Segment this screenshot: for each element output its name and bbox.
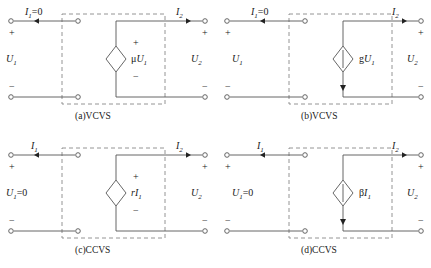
label-output-voltage: U2 xyxy=(407,54,418,67)
sign-right-plus: + xyxy=(202,162,208,172)
source-label: βI1 xyxy=(359,188,371,201)
sign-right-minus: − xyxy=(202,216,208,226)
label-output-current: I2 xyxy=(392,7,399,20)
sign-right-plus: + xyxy=(202,28,208,38)
terminal-right-bottom xyxy=(419,95,424,100)
terminal-left-top xyxy=(225,153,230,158)
source-minus-sign: − xyxy=(133,72,139,82)
label-output-current: I2 xyxy=(392,141,399,154)
label-input-current: I1 xyxy=(257,141,264,154)
terminal-left-top xyxy=(9,153,14,158)
sign-left-minus: − xyxy=(9,82,15,92)
terminal-inner-top xyxy=(76,19,81,24)
sign-right-plus: + xyxy=(418,28,424,38)
sign-right-minus: − xyxy=(202,82,208,92)
dependent-source-figure: I1=0 I2 + − + − U1 U2 + − μU1 (a)VCVS xyxy=(0,0,431,268)
sign-left-minus: − xyxy=(225,216,231,226)
terminal-inner-top xyxy=(303,19,308,24)
terminal-inner-bottom xyxy=(303,95,308,100)
terminal-left-top xyxy=(9,19,14,24)
label-output-current: I2 xyxy=(176,7,183,20)
two-port-box xyxy=(62,14,165,104)
source-label: gU1 xyxy=(359,54,375,67)
sign-right-minus: − xyxy=(418,216,424,226)
panel-a: I1=0 I2 + − + − U1 U2 + − μU1 (a)VCVS xyxy=(0,0,215,134)
source-plus-sign: + xyxy=(133,172,139,182)
panel-caption: (b)VCVS xyxy=(301,112,337,122)
dependent-voltage-source xyxy=(106,180,126,206)
terminal-right-top xyxy=(419,19,424,24)
panel-caption: (c)CCVS xyxy=(75,246,110,256)
current-arrow-right xyxy=(402,152,407,157)
terminal-inner-bottom xyxy=(303,229,308,234)
label-output-current: I2 xyxy=(176,141,183,154)
panel-caption: (a)VCVS xyxy=(75,112,111,122)
terminal-right-bottom xyxy=(203,95,208,100)
panel-caption: (d)CCVS xyxy=(301,246,337,256)
source-label: rI1 xyxy=(131,188,142,201)
sign-left-minus: − xyxy=(9,216,15,226)
sign-left-plus: + xyxy=(9,162,15,172)
label-input-current: I1=0 xyxy=(251,7,268,20)
current-arrow-right xyxy=(186,18,191,23)
two-port-box xyxy=(62,148,165,238)
terminal-right-top xyxy=(419,153,424,158)
sign-left-plus: + xyxy=(225,162,231,172)
label-output-voltage: U2 xyxy=(407,188,418,201)
sign-right-plus: + xyxy=(418,162,424,172)
terminal-right-bottom xyxy=(419,229,424,234)
terminal-right-top xyxy=(203,153,208,158)
source-label: μU1 xyxy=(131,54,147,67)
source-current-arrowhead xyxy=(340,219,346,225)
sign-left-plus: + xyxy=(9,28,15,38)
panel-c: I1 I2 + − + − U1=0 U2 + − rI1 (c)CCVS xyxy=(0,134,215,268)
label-input-voltage: U1 xyxy=(232,54,243,67)
two-port-box xyxy=(289,14,392,104)
sign-left-minus: − xyxy=(225,82,231,92)
sign-left-plus: + xyxy=(225,28,231,38)
source-plus-sign: + xyxy=(133,38,139,48)
label-output-voltage: U2 xyxy=(191,188,202,201)
terminal-right-top xyxy=(203,19,208,24)
panel-b: I1=0 I2 + − + − U1 U2 gU1 (b)VCVS xyxy=(216,0,431,134)
terminal-inner-top xyxy=(76,153,81,158)
label-input-current: I1=0 xyxy=(25,7,42,20)
terminal-right-bottom xyxy=(203,229,208,234)
current-arrow-right xyxy=(186,152,191,157)
label-input-voltage: U1 xyxy=(6,54,17,67)
terminal-left-bottom xyxy=(9,95,14,100)
panel-d: I1 I2 + − + − U1=0 U2 βI1 (d)CCVS xyxy=(216,134,431,268)
terminal-left-top xyxy=(225,19,230,24)
two-port-box xyxy=(289,148,392,238)
source-minus-sign: − xyxy=(133,206,139,216)
terminal-left-bottom xyxy=(225,229,230,234)
current-arrow-right xyxy=(402,18,407,23)
terminal-left-bottom xyxy=(9,229,14,234)
label-input-voltage: U1=0 xyxy=(6,188,27,201)
terminal-inner-bottom xyxy=(76,229,81,234)
sign-right-minus: − xyxy=(418,82,424,92)
label-output-voltage: U2 xyxy=(191,54,202,67)
label-input-voltage: U1=0 xyxy=(232,188,253,201)
source-current-arrowhead xyxy=(340,85,346,91)
label-input-current: I1 xyxy=(31,141,38,154)
terminal-inner-bottom xyxy=(76,95,81,100)
dependent-voltage-source xyxy=(106,46,126,72)
terminal-inner-top xyxy=(303,153,308,158)
terminal-left-bottom xyxy=(225,95,230,100)
